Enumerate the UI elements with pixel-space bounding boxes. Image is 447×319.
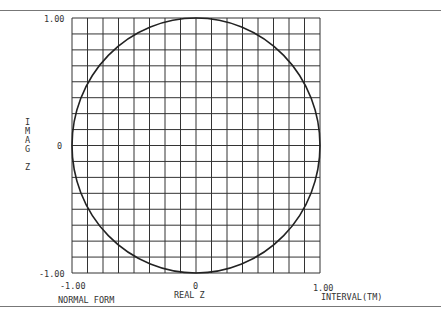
plot-area — [0, 0, 447, 319]
y-tick-top: 1.00 — [44, 15, 64, 24]
y-label-char: G — [25, 145, 33, 154]
y-axis-label: I M A G Z — [25, 118, 33, 172]
y-tick-mid: 0 — [57, 142, 62, 151]
y-tick-bottom: -1.00 — [39, 270, 65, 279]
x-axis-label: REAL Z — [174, 291, 205, 300]
footer-left-label: NORMAL FORM — [58, 296, 114, 305]
x-tick-left: -1.00 — [60, 282, 86, 291]
y-label-char: Z — [25, 163, 33, 172]
footer-right-label: INTERVAL(TM) — [321, 293, 382, 302]
